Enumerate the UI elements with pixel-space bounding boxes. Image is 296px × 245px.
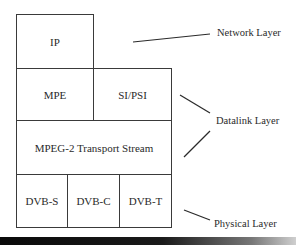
physical-layer-label: Physical Layer xyxy=(214,218,277,229)
bottom-divider-bar xyxy=(0,237,296,245)
network-layer-label: Network Layer xyxy=(217,27,281,38)
network-connector xyxy=(133,34,210,42)
physical-connector xyxy=(184,210,210,220)
datalink-layer-label: Datalink Layer xyxy=(216,115,279,126)
datalink-connector-lower xyxy=(184,131,210,157)
datalink-connector-upper xyxy=(180,95,210,113)
